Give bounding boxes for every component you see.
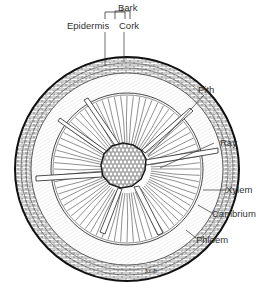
label-pith: Pith	[198, 84, 214, 95]
label-cambrium: Cambrium	[212, 208, 256, 219]
label-epidermis: Epidermis	[67, 20, 109, 31]
label-ray: Ray	[220, 137, 237, 148]
label-phloem: Phloem	[196, 234, 228, 245]
label-cork: Cork	[119, 20, 139, 31]
artist-signature: KCB	[144, 268, 157, 274]
label-bark: Bark	[118, 2, 138, 13]
label-xylem: Xylem	[226, 184, 252, 195]
tree-cross-section-diagram: KCB Bark Epidermis Cork Pith Ray Xylem C…	[0, 0, 269, 282]
